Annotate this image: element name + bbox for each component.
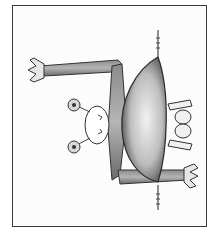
creature-body <box>122 57 166 182</box>
antenna-bottom <box>156 185 160 210</box>
eye-stalk-bottom <box>68 138 90 153</box>
upper-arm <box>40 60 122 76</box>
creature-drawing <box>0 0 220 234</box>
upper-hand <box>28 58 44 82</box>
eye-stalk-top <box>68 99 90 112</box>
antenna-top <box>156 30 160 57</box>
lower-hand <box>184 164 198 188</box>
feet <box>168 100 192 150</box>
